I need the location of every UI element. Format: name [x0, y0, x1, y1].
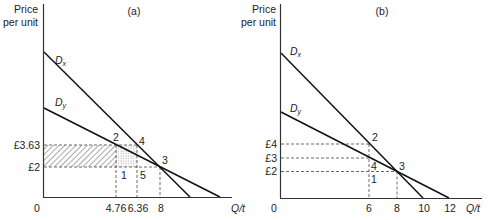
origin-label-b: 0: [271, 202, 277, 214]
dotted-area-a: [116, 145, 137, 167]
curve-label-dx-a: Dx: [55, 54, 67, 67]
point-label-4-b: 4: [371, 160, 377, 172]
y-axis-label-b-line2: per unit: [241, 16, 276, 28]
x-tick-636-a: 6.36: [128, 202, 149, 214]
y-axis-label-a-line2: per unit: [3, 16, 38, 28]
x-axis-label-a: Q/t: [231, 202, 246, 214]
curve-label-dy-b: Dy: [290, 102, 302, 116]
panel-a: Price per unit (a) Dx Dy £3.63 £2 0 4.76…: [3, 3, 246, 214]
demand-curve-dx-a: [44, 52, 190, 197]
x-axis-label-b: Q/t: [466, 202, 481, 214]
curve-label-dy-a: Dy: [55, 96, 67, 110]
point-label-3-b: 3: [399, 160, 405, 172]
curve-label-dx-b: Dx: [290, 45, 302, 58]
x-tick-8-b: 8: [394, 202, 400, 214]
point-label-4-a: 4: [139, 135, 145, 147]
y-axis-label-a-line1: Price: [14, 3, 38, 15]
y-axis-label-b-line1: Price: [252, 3, 276, 15]
panel-title-b: (b): [376, 5, 389, 17]
demand-curve-dx-b: [281, 53, 423, 198]
panel-title-a: (a): [128, 5, 141, 17]
point-label-3-a: 3: [162, 154, 168, 166]
point-label-1-a: 1: [121, 169, 127, 181]
demand-diagrams: Price per unit (a) Dx Dy £3.63 £2 0 4.76…: [0, 0, 488, 220]
y-tick-3-b: £3: [265, 152, 277, 164]
y-tick-363-a: £3.63: [14, 139, 40, 151]
point-label-1-b: 1: [371, 173, 377, 185]
y-tick-4-b: £4: [265, 138, 277, 150]
x-tick-8-a: 8: [158, 202, 164, 214]
x-tick-6-b: 6: [366, 202, 372, 214]
y-tick-2-b: £2: [265, 165, 277, 177]
origin-label-a: 0: [34, 202, 40, 214]
point-label-2-a: 2: [113, 131, 119, 143]
demand-curve-dy-b: [281, 112, 449, 198]
hatched-area-a: [44, 145, 116, 167]
panel-b: Price per unit (b) Dx Dy £4 £3 £2 0 6 8 …: [241, 3, 482, 214]
x-tick-476-a: 4.76: [106, 202, 127, 214]
x-tick-12-b: 12: [444, 202, 456, 214]
y-tick-2-a: £2: [28, 161, 40, 173]
point-label-5-a: 5: [140, 169, 146, 181]
x-tick-10-b: 10: [418, 202, 430, 214]
point-label-2-b: 2: [372, 131, 378, 143]
